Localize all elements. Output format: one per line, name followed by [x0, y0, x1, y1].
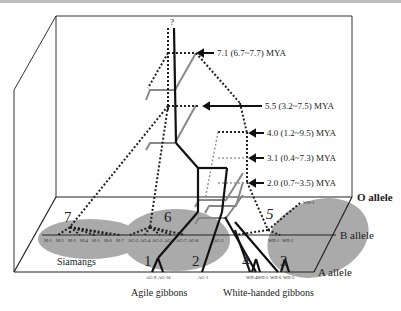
- time-label-2-0: 2.0 (0.7~3.5) MYA: [267, 178, 337, 188]
- svg-text:SI-6: SI-6: [104, 238, 112, 243]
- svg-text:WH-3: WH-3: [283, 275, 295, 280]
- cluster-4-label: 4: [242, 253, 250, 269]
- svg-text:AG-5: AG-5: [152, 238, 163, 243]
- svg-text:SI-4: SI-4: [80, 238, 88, 243]
- svg-text:SI-3: SI-3: [68, 238, 76, 243]
- gray-tree: [146, 53, 243, 224]
- svg-text:AG-1: AG-1: [198, 275, 208, 280]
- b-plane-taxa: SI-1 SI-2 SI-3 SI-4 SI-5 SI-6 SI-7 AG-2 …: [44, 238, 293, 243]
- svg-text:AG-8: AG-8: [188, 238, 199, 243]
- svg-text:AG-2: AG-2: [128, 238, 138, 243]
- svg-text:SI-1: SI-1: [44, 238, 52, 243]
- time-arrows: [198, 50, 264, 186]
- dotted-projections: [58, 28, 300, 235]
- svg-text:WH-1: WH-1: [268, 238, 279, 243]
- svg-text:WH-6: WH-6: [270, 275, 282, 280]
- svg-text:AG-6: AG-6: [164, 238, 175, 243]
- svg-text:SI-5: SI-5: [92, 238, 100, 243]
- time-label-4-0: 4.0 (1.2~9.5) MYA: [267, 128, 337, 138]
- root-question-label: ?: [170, 17, 174, 27]
- a-allele-label: A allele: [318, 266, 352, 278]
- o-plane-taxon: WH-1: [303, 200, 314, 205]
- svg-text:WH-2: WH-2: [282, 238, 293, 243]
- cluster-3-label: 3: [280, 253, 288, 269]
- svg-text:AG-10: AG-10: [158, 275, 171, 280]
- time-label-3-1: 3.1 (0.4~7.3) MYA: [267, 153, 337, 163]
- o-allele-label: O allele: [357, 191, 393, 203]
- svg-text:AG-3: AG-3: [213, 238, 224, 243]
- siamangs-label: Siamangs: [57, 256, 96, 267]
- svg-text:SI-2: SI-2: [56, 238, 64, 243]
- svg-text:AG-4: AG-4: [140, 238, 151, 243]
- svg-text:SI-7: SI-7: [116, 238, 124, 243]
- cluster-7-label: 7: [64, 209, 72, 225]
- time-label-5-5: 5.5 (3.2~7.5) MYA: [265, 101, 335, 111]
- cluster-6-label: 6: [164, 209, 172, 225]
- svg-text:AG-7: AG-7: [176, 238, 187, 243]
- cluster-1-label: 1: [144, 253, 152, 269]
- phylogeny-diagram: ? 7.1 (6.7~7.7) MYA 5.5 (3.2~7.5) MYA 4.…: [0, 0, 401, 311]
- a-plane-taxa: AG-9 AG-10 AG-1 WH-4 WH-5 WH-6 WH-3: [146, 275, 295, 280]
- svg-text:WH-5: WH-5: [257, 275, 269, 280]
- cluster-2-label: 2: [192, 253, 200, 269]
- agile-gibbons-label: Agile gibbons: [131, 287, 187, 298]
- b-allele-label: B allele: [340, 229, 374, 241]
- cluster-5-label: 5: [266, 206, 274, 222]
- white-handed-gibbons-label: White-handed gibbons: [223, 287, 314, 298]
- svg-text:AG-9: AG-9: [146, 275, 157, 280]
- time-label-7-1: 7.1 (6.7~7.7) MYA: [217, 48, 287, 58]
